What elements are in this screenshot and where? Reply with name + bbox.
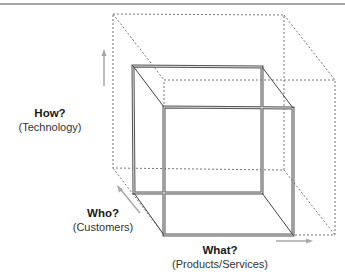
who-question: Who?	[63, 206, 143, 220]
what-description: (Products/Services)	[160, 257, 280, 271]
expanded-cube-back-face	[113, 14, 284, 170]
current-cube-back-face-inner	[133, 66, 262, 193]
what-question: What?	[160, 243, 280, 257]
expanded-scope-cube	[113, 14, 335, 235]
current-cube-edge	[133, 66, 164, 107]
arrowhead-icon	[102, 49, 107, 56]
how-question: How?	[10, 106, 90, 120]
expanded-cube-edge	[284, 15, 335, 80]
who-description: (Customers)	[63, 220, 143, 234]
what-axis-label: What? (Products/Services)	[160, 243, 280, 271]
how-axis-label: How? (Technology)	[10, 106, 90, 134]
expanded-cube-edge	[113, 14, 164, 80]
arrowhead-icon	[306, 239, 313, 244]
current-scope-cube	[133, 66, 293, 235]
current-cube-edge	[262, 67, 293, 108]
current-cube-front-face-inner	[164, 107, 293, 235]
current-cube-back-face	[133, 66, 262, 193]
expanded-cube-front-face	[164, 80, 335, 235]
current-cube-edge	[262, 193, 293, 235]
cube-diagram	[0, 0, 345, 275]
how-axis-arrow	[102, 49, 107, 86]
how-description: (Technology)	[10, 120, 90, 134]
what-axis-arrow	[276, 239, 313, 244]
current-cube-front-face	[164, 107, 293, 235]
who-axis-label: Who? (Customers)	[63, 206, 143, 234]
